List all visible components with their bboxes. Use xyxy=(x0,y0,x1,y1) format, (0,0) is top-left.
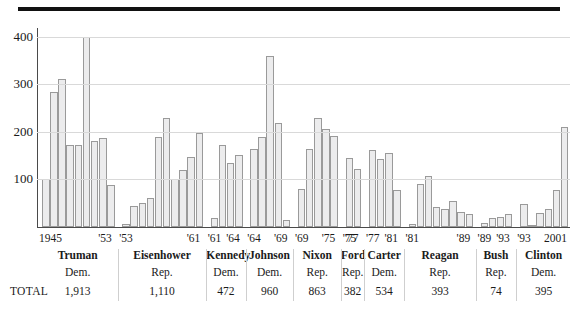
bar xyxy=(275,123,283,227)
bar xyxy=(481,223,489,227)
x-tick-label-end: '89 xyxy=(457,232,471,244)
bar xyxy=(211,218,219,228)
table-column-separator xyxy=(118,249,119,301)
bar xyxy=(266,56,274,227)
bar xyxy=(66,145,74,227)
bar-group-johnson xyxy=(250,27,291,227)
x-tick-label-end: '77 xyxy=(345,232,359,244)
bar xyxy=(99,138,107,227)
bar xyxy=(545,209,553,227)
table-party: Dem. xyxy=(38,266,118,279)
bar xyxy=(298,189,306,227)
x-tick-label-end: '75 xyxy=(322,232,336,244)
table-total-value: 395 xyxy=(516,285,572,298)
table-column-separator xyxy=(341,249,342,301)
x-tick-label-end: '93 xyxy=(496,232,510,244)
x-tick-label-start: '64 xyxy=(247,232,261,244)
bar xyxy=(561,127,569,227)
table-column-separator xyxy=(206,249,207,301)
bar xyxy=(417,184,425,227)
table-total-value: 534 xyxy=(364,285,404,298)
bar xyxy=(322,129,330,227)
bar xyxy=(130,206,138,227)
x-axis-tick-labels: 1945'53'53'61'61'64'64'69'69'75'75'77'77… xyxy=(0,232,578,246)
y-axis-labels: 100200300400 xyxy=(0,22,36,232)
table-president-name: Johnson xyxy=(246,249,294,262)
bar-group-eisenhower xyxy=(122,27,203,227)
top-rule-divider xyxy=(18,7,560,11)
table-column-separator xyxy=(516,249,517,301)
x-tick-label-end: 2001 xyxy=(544,232,567,244)
y-tick-label: 300 xyxy=(14,77,34,90)
bar xyxy=(250,149,258,227)
x-tick-label-end: '81 xyxy=(384,232,398,244)
bar xyxy=(536,213,544,227)
table-total-value: 1,913 xyxy=(38,285,118,298)
bar xyxy=(354,169,362,227)
bar xyxy=(505,214,513,227)
bar xyxy=(409,224,417,227)
bar xyxy=(497,217,505,228)
table-total-value: 1,110 xyxy=(118,285,206,298)
bar xyxy=(187,157,195,227)
table-party: Rep. xyxy=(118,266,206,279)
bar xyxy=(385,153,393,227)
table-party: Dem. xyxy=(206,266,246,279)
table-president-name: Clinton xyxy=(516,249,572,262)
x-tick-label-end: '53 xyxy=(98,232,112,244)
table-total-value: 393 xyxy=(404,285,476,298)
bar xyxy=(433,207,441,227)
table-president-name: Reagan xyxy=(404,249,476,262)
plot-canvas xyxy=(37,22,570,232)
bar xyxy=(377,159,385,227)
bar xyxy=(155,137,163,228)
bar xyxy=(219,145,227,227)
x-tick-label-end: '69 xyxy=(274,232,288,244)
summary-table: TOTAL TrumanDem.1,913EisenhowerRep.1,110… xyxy=(0,249,578,307)
gridline-400 xyxy=(37,37,570,38)
table-president-name: Nixon xyxy=(293,249,341,262)
bar xyxy=(75,145,83,227)
table-column-separator xyxy=(476,249,477,301)
x-tick-label-start: '69 xyxy=(295,232,309,244)
table-party: Dem. xyxy=(246,266,294,279)
table-total-value: 863 xyxy=(293,285,341,298)
bar-group-kennedy xyxy=(211,27,244,227)
x-tick-label-start: 1945 xyxy=(39,232,62,244)
bar-group-truman xyxy=(42,27,115,227)
table-column-separator xyxy=(364,249,365,301)
x-tick-label-start: '53 xyxy=(119,232,133,244)
bar xyxy=(330,136,338,227)
bar xyxy=(42,179,50,227)
table-total-value: 472 xyxy=(206,285,246,298)
bar xyxy=(91,141,99,227)
bar xyxy=(50,92,58,227)
x-tick-label-start: '77 xyxy=(366,232,380,244)
bar xyxy=(122,224,130,227)
bar xyxy=(171,179,179,227)
bar xyxy=(346,158,354,227)
table-president-name: Kennedy xyxy=(206,249,246,262)
table-party: Dem. xyxy=(516,266,572,279)
bar-group-ford xyxy=(346,27,362,227)
table-president-name: Eisenhower xyxy=(118,249,206,262)
table-total-value: 382 xyxy=(341,285,364,298)
bar-group-reagan xyxy=(409,27,474,227)
chart-figure: 100200300400 1945'53'53'61'61'64'64'69'6… xyxy=(0,0,578,310)
bar xyxy=(314,118,322,228)
x-tick-label-start: '61 xyxy=(208,232,222,244)
x-tick-label-end: '64 xyxy=(226,232,240,244)
bar xyxy=(457,212,465,227)
bar-group-carter xyxy=(369,27,402,227)
x-tick-label-start: '93 xyxy=(517,232,531,244)
table-president-name: Carter xyxy=(364,249,404,262)
gridline-100 xyxy=(37,179,570,180)
bar xyxy=(369,150,377,227)
bar xyxy=(393,190,401,227)
x-tick-label-end: '61 xyxy=(187,232,201,244)
bar xyxy=(553,190,561,227)
x-tick-label-start: '89 xyxy=(478,232,492,244)
bar xyxy=(163,118,171,227)
table-column-separator xyxy=(246,249,247,301)
gridline-300 xyxy=(37,84,570,85)
